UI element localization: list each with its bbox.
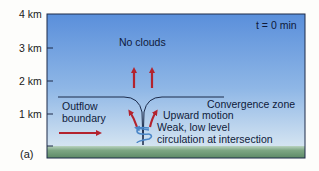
outflow-label-line2: boundary	[62, 112, 107, 124]
y-tick-4km: 4 km	[19, 8, 42, 20]
outflow-label-line1: Outflow	[62, 100, 98, 112]
circulation-label-line2: circulation at intersection	[157, 133, 273, 145]
y-tick-2km: 2 km	[19, 75, 42, 87]
panel-label: (a)	[20, 148, 33, 160]
ground-strip	[47, 146, 305, 158]
convergence-zone-diagram: 4 km 3 km 2 km 1 km (a) t = 0 min No clo…	[0, 0, 319, 171]
y-tick-3km: 3 km	[19, 42, 42, 54]
no-clouds-label: No clouds	[119, 36, 166, 48]
y-tick-1km: 1 km	[19, 108, 42, 120]
circulation-label-line1: Weak, low level	[157, 121, 230, 133]
upward-motion-label: Upward motion	[163, 109, 234, 121]
time-label: t = 0 min	[256, 19, 297, 31]
